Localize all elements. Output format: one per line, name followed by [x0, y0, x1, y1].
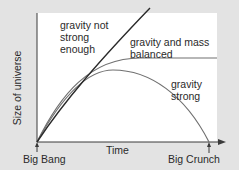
big-crunch-label: Big Crunch: [168, 153, 220, 165]
label-strong-2: strong: [171, 90, 200, 102]
label-balanced-1: gravity and mass: [130, 36, 209, 48]
x-axis-arrow-icon: [218, 139, 226, 145]
big-bang-arrow-icon: [35, 142, 39, 147]
big-bang-label: Big Bang: [23, 153, 66, 165]
big-crunch-arrow-icon: [207, 142, 211, 147]
label-strong-1: gravity: [171, 78, 202, 90]
x-axis-label: Time: [106, 144, 129, 156]
label-not-strong-3: enough: [60, 43, 95, 55]
y-axis-label: Size of universe: [11, 33, 23, 143]
label-not-strong-2: strong: [60, 31, 89, 43]
label-not-strong-1: gravity not: [60, 19, 108, 31]
label-balanced-2: balanced: [130, 48, 173, 60]
